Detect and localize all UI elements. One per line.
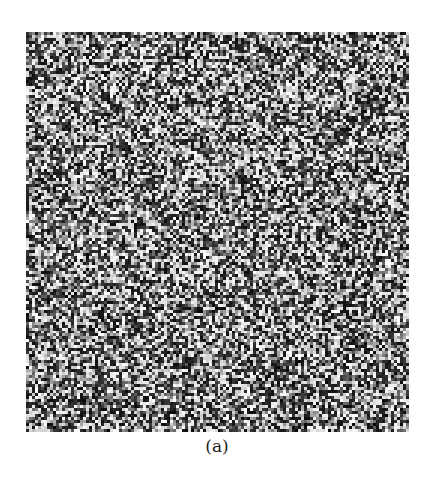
noise-image (26, 32, 409, 432)
figure-caption: (a) (0, 436, 434, 456)
figure: (a) (0, 0, 434, 481)
